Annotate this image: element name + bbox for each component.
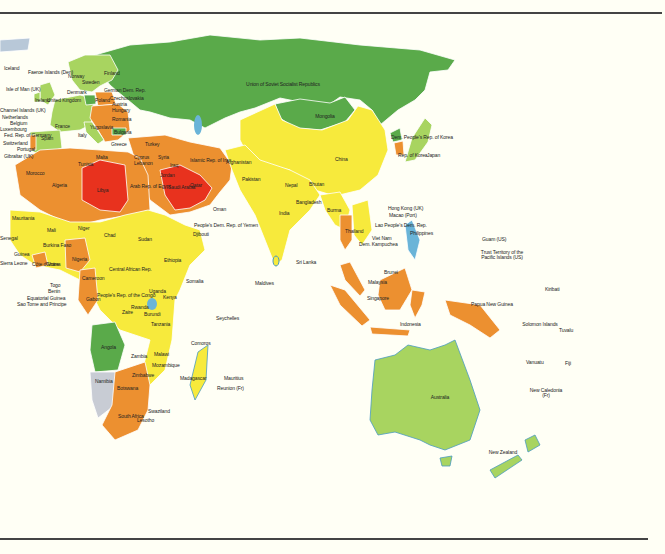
label-gdr: German Dem. Rep. (104, 88, 146, 93)
label-guinea: Guinea (14, 252, 30, 257)
region-australia (370, 340, 480, 450)
label-congo: People's Rep. of the Congo (97, 293, 155, 298)
region-java (370, 327, 410, 336)
label-denmark: Denmark (67, 90, 87, 95)
label-burma: Burma (327, 208, 341, 213)
label-singapore: Singapore (367, 296, 389, 301)
label-france: France (55, 124, 70, 129)
label-jordan: Jordan (160, 173, 175, 178)
label-brunei: Brunei (384, 270, 398, 275)
label-png: Papua New Guinea (471, 302, 513, 307)
label-burkina: Burkina Faso (43, 243, 71, 248)
label-seychelles: Seychelles (216, 316, 239, 321)
label-yugoslavia: Yugoslavia (90, 125, 113, 130)
label-angola: Angola (101, 345, 116, 350)
label-lesotho: Lesotho (137, 418, 154, 423)
label-morocco: Morocco (26, 171, 44, 176)
label-rwanda: Rwanda (131, 305, 149, 310)
label-cameroon: Cameroon (82, 276, 105, 281)
label-fiji: Fiji (565, 361, 571, 366)
label-new-zealand: New Zealand (489, 450, 517, 455)
label-kampuchea: Dem. Kampuchea (359, 242, 398, 247)
island-sri-lanka (273, 256, 279, 266)
region-madagascar (190, 345, 208, 400)
label-australia: Australia (431, 395, 450, 400)
label-solomon: Solomon Islands (522, 322, 558, 327)
label-hungary: Hungary (112, 108, 130, 113)
label-pakistan: Pakistan (242, 177, 260, 182)
label-philippines: Philippines (410, 231, 433, 236)
label-trust: Trust Territory of the Pacific Islands (… (477, 250, 527, 260)
label-macao: Macao (Port) (389, 213, 417, 218)
label-nigeria: Nigeria (72, 257, 87, 262)
label-ethiopia: Ethiopia (164, 258, 181, 263)
label-korea: Rep. of Korea (398, 153, 428, 158)
region-sulawesi (410, 290, 425, 318)
bottom-rule (0, 538, 648, 540)
label-namibia: Namibia (95, 379, 113, 384)
label-turkey: Turkey (145, 142, 160, 147)
label-swaziland: Swaziland (148, 409, 170, 414)
label-finland: Finland (104, 71, 120, 76)
label-indonesia: Indonesia (400, 322, 421, 327)
label-senegal: Senegal (0, 236, 18, 241)
label-new-caledonia: New Caledonia (Fr) (528, 388, 564, 398)
label-ghana: Ghana (46, 262, 61, 267)
label-bhutan: Bhutan (309, 182, 324, 187)
label-iceland: Iceland (4, 66, 19, 71)
label-poland: Poland (95, 98, 110, 103)
label-car: Central African Rep. (109, 267, 152, 272)
label-algeria: Algeria (52, 183, 67, 188)
label-dprk: Dem. People's Rep. of Korea (391, 135, 453, 140)
label-afghanistan: Afghanistan (226, 160, 251, 165)
label-vanuatu: Vanuatu (526, 360, 544, 365)
label-chad: Chad (104, 233, 116, 238)
label-malawi: Malawi (154, 352, 169, 357)
label-lebanon: Lebanon (134, 161, 153, 166)
label-nepal: Nepal (285, 183, 298, 188)
label-reunion: Reunion (Fr) (217, 386, 244, 391)
label-syria: Syria (158, 155, 169, 160)
label-portugal: Portugal (17, 147, 35, 152)
label-zaire: Zaire (122, 310, 133, 315)
label-bulgaria: Bulgaria (114, 130, 132, 135)
label-iran: Islamic Rep. of Iran (190, 158, 231, 163)
label-kenya: Kenya (163, 295, 177, 300)
label-gibraltar: Gibraltar (UK) (4, 154, 33, 159)
label-romania: Romania (112, 117, 131, 122)
label-bangladesh: Bangladesh (296, 200, 321, 205)
label-india: India (279, 211, 289, 216)
label-malaysia: Malaysia (368, 280, 387, 285)
region-new-zealand (525, 435, 540, 452)
label-mauritania: Mauritania (12, 216, 34, 221)
label-malta: Malta (96, 155, 108, 160)
label-mauritius: Mauritius (224, 376, 243, 381)
label-egypt: Arab Rep. of Egypt (130, 184, 170, 189)
label-mongolia: Mongolia (315, 114, 335, 119)
label-mali: Mali (47, 228, 56, 233)
label-yemen: People's Dem. Rep. of Yemen (194, 223, 258, 228)
label-oman: Oman (213, 207, 226, 212)
label-china: China (335, 157, 348, 162)
label-somalia: Somalia (186, 279, 203, 284)
label-djibouti: Djibouti (193, 232, 209, 237)
label-ussr: Union of Soviet Socialist Republics (246, 82, 320, 87)
label-burundi: Burundi (144, 312, 161, 317)
label-iraq: Iraq (170, 163, 178, 168)
region-new-zealand-south (490, 455, 522, 478)
region-tasmania (440, 456, 452, 466)
label-sierra-leone: Sierra Leone (0, 261, 27, 266)
label-libya: Libya (97, 188, 108, 193)
label-isle-of-man: Isle of Man (UK) (6, 87, 41, 92)
label-mozambique: Mozambique (152, 363, 180, 368)
label-tuvalu: Tuvalu (559, 328, 573, 333)
label-kiribati: Kiribati (545, 287, 559, 292)
region-libya (82, 160, 128, 212)
label-maldives: Maldives (255, 281, 274, 286)
label-zimbabwe: Zimbabwe (132, 373, 154, 378)
label-qatar: Qatar (190, 183, 202, 188)
label-niger: Niger (78, 226, 89, 231)
label-sao-tome: Sao Tome and Principe (17, 302, 67, 307)
caspian-sea (194, 115, 202, 135)
label-sudan: Sudan (138, 237, 152, 242)
